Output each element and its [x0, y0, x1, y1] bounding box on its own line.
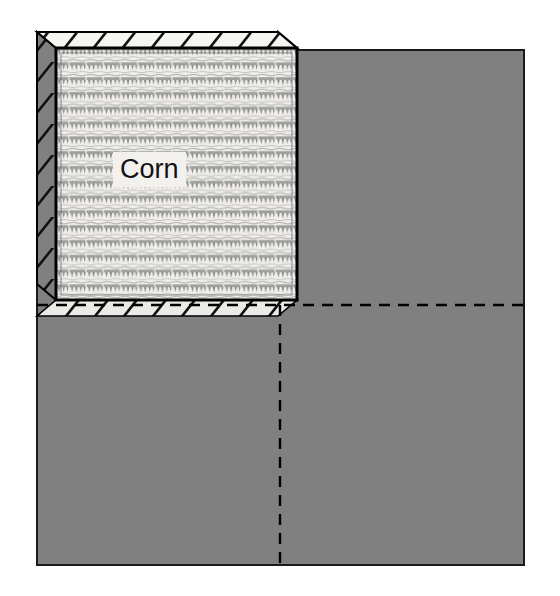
figure-canvas: Corn [0, 0, 560, 596]
corn-label: Corn [113, 152, 186, 187]
diagram-svg [0, 0, 560, 596]
